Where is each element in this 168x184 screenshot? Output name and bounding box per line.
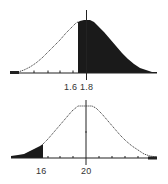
bottom-normal-curve-chart [11,100,157,165]
bottom-tick-label-20: 20 [81,166,91,176]
top-tick-label-1-8: 1.8 [80,82,93,92]
top-tick-label-1-6: 1.6 [64,82,77,92]
top-normal-curve-chart [10,10,157,80]
top-shaded-region [78,20,157,73]
bottom-shaded-region [11,144,43,158]
top-curve-left [10,22,78,72]
charts-canvas [0,0,168,184]
bottom-tick-label-16: 16 [36,166,46,176]
bottom-curve [43,106,157,157]
